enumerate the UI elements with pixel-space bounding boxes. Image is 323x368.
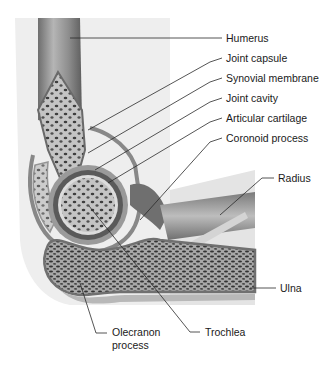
label-olecranon: Olecranon [112, 326, 161, 338]
ulna-bone [44, 239, 255, 295]
label-articular-cartilage: Articular cartilage [226, 112, 307, 124]
label-humerus: Humerus [226, 32, 269, 44]
label-joint-cavity: Joint cavity [226, 92, 279, 104]
label-radius: Radius [278, 172, 311, 184]
label-coronoid-process: Coronoid process [226, 132, 308, 144]
label-ulna: Ulna [280, 282, 302, 294]
label-synovial-membrane: Synovial membrane [226, 72, 319, 84]
label-trochlea: Trochlea [205, 326, 246, 338]
label-joint-capsule: Joint capsule [226, 52, 287, 64]
trochlea [48, 165, 128, 245]
elbow-joint-diagram: Humerus Joint capsule Synovial membrane … [0, 0, 323, 368]
label-olecranon-process: process [112, 339, 149, 351]
